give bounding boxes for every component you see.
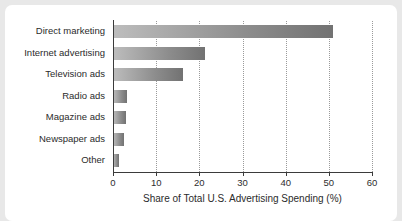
gridline-40 [286, 21, 287, 172]
x-tick-label-50: 50 [324, 177, 335, 188]
x-tick-mark [156, 172, 157, 176]
x-tick-label-60: 60 [367, 177, 378, 188]
bar-television-ads [113, 68, 183, 81]
x-axis-title: Share of Total U.S. Advertising Spending… [113, 193, 372, 204]
x-tick-label-20: 20 [194, 177, 205, 188]
category-label-newspaper-ads: Newspaper ads [39, 133, 105, 145]
category-label-television-ads: Television ads [45, 68, 105, 80]
plot-area [113, 21, 372, 172]
x-tick-label-10: 10 [151, 177, 162, 188]
bar-chart: 0 10 20 30 40 50 60 Direct marketing Int… [0, 0, 402, 221]
gridline-30 [243, 21, 244, 172]
y-axis-line [113, 20, 114, 173]
bar-magazine-ads [113, 111, 126, 124]
x-tick-label-40: 40 [280, 177, 291, 188]
category-label-magazine-ads: Magazine ads [46, 111, 105, 123]
gridline-50 [329, 21, 330, 172]
gridline-10 [156, 21, 157, 172]
x-tick-mark [243, 172, 244, 176]
gridline-20 [199, 21, 200, 172]
x-tick-mark [113, 172, 114, 176]
x-tick-mark [372, 172, 373, 176]
bar-radio-ads [113, 90, 127, 103]
x-tick-mark [199, 172, 200, 176]
bar-internet-advertising [113, 47, 205, 60]
category-label-direct-marketing: Direct marketing [36, 25, 105, 37]
category-label-other: Other [81, 154, 105, 166]
bar-newspaper-ads [113, 133, 124, 146]
category-label-internet-advertising: Internet advertising [24, 47, 105, 59]
chart-page: 0 10 20 30 40 50 60 Direct marketing Int… [0, 0, 402, 221]
category-label-radio-ads: Radio ads [62, 90, 105, 102]
x-tick-mark [329, 172, 330, 176]
bar-direct-marketing [113, 25, 333, 38]
gridline-60 [372, 21, 373, 172]
x-tick-label-30: 30 [237, 177, 248, 188]
x-tick-mark [286, 172, 287, 176]
x-tick-label-0: 0 [110, 177, 115, 188]
